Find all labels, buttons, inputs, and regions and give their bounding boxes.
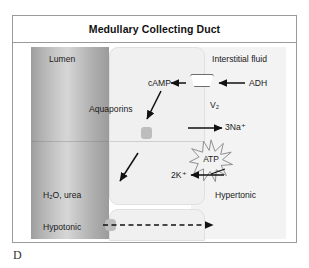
label-aquaporins: Aquaporins: [89, 105, 132, 114]
label-water-urea: H₂O, urea: [43, 191, 81, 200]
figure-title-bar: Medullary Collecting Duct: [13, 16, 296, 43]
lumen-seam-divider: [31, 141, 109, 142]
label-hypotonic: Hypotonic: [43, 223, 81, 232]
aquaporin-channel-icon: [105, 219, 116, 231]
label-v2-receptor: V₂: [210, 101, 219, 110]
tubule-lumen-region: [31, 47, 109, 239]
diagram-canvas: ATP Lumen Inter: [13, 43, 298, 243]
label-sodium: 3Na⁺: [225, 123, 246, 132]
label-adh: ADH: [249, 79, 267, 88]
label-hypertonic: Hypertonic: [215, 191, 256, 200]
label-lumen: Lumen: [49, 55, 75, 64]
label-interstitial-fluid: Interstitial fluid: [212, 55, 267, 64]
label-camp: cAMP: [148, 79, 171, 88]
figure-frame: Medullary Collecting Duct ATP: [12, 15, 297, 243]
aquaporin-vesicle-icon: [141, 127, 152, 139]
atp-label: ATP: [189, 154, 233, 164]
page-title: Medullary Collecting Duct: [89, 23, 220, 35]
panel-letter: D: [13, 248, 22, 263]
label-potassium: 2K⁺: [171, 171, 187, 180]
adjacent-cell: [109, 209, 205, 241]
